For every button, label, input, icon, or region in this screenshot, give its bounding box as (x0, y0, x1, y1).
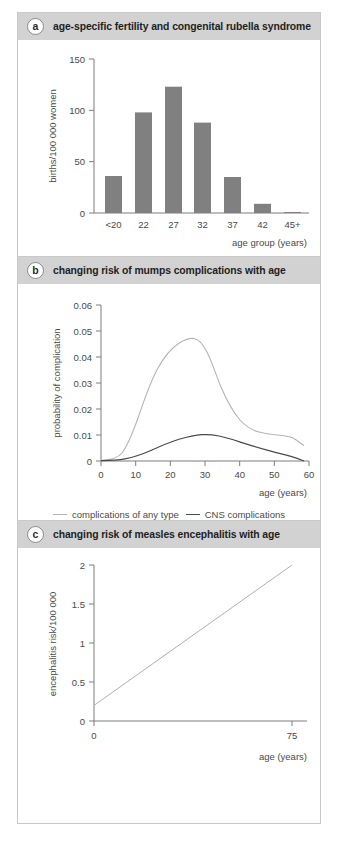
chart-a-ytick-50: 50 (74, 156, 85, 167)
chart-a-ytick-150: 150 (69, 54, 85, 65)
legend-label-cns: CNS complications (205, 509, 285, 520)
bar-lt20 (105, 176, 122, 213)
chart-c-line: 2 1.5 1 0.5 0 0 75 age (years) (18, 549, 320, 771)
bar-32 (194, 123, 211, 213)
chart-a-ytick-100: 100 (69, 105, 85, 116)
chart-b-ytick-0: 0 (87, 456, 92, 467)
panel-b: b changing risk of mumps complications w… (18, 257, 320, 520)
chart-b-xtick-60: 60 (304, 469, 315, 480)
panel-a-header: a age-specific fertility and congenital … (18, 13, 320, 41)
chart-c-xtick-0: 0 (91, 730, 96, 741)
figure-container: a age-specific fertility and congenital … (17, 12, 321, 824)
chart-c-ylabel: encephalitis risk/100 000 (47, 592, 58, 697)
chart-a-xtick-5: 42 (257, 219, 268, 230)
chart-b-xtick-50: 50 (269, 469, 280, 480)
chart-c-ytick-15: 1.5 (72, 599, 85, 610)
chart-a-xtick-3: 32 (197, 219, 208, 230)
chart-c-xticks: 0 75 (91, 721, 297, 741)
bar-37 (224, 177, 241, 213)
chart-a-xtick-4: 37 (227, 219, 238, 230)
chart-a-xlabel: age group (years) (232, 237, 307, 248)
chart-b-legend: complications of any type CNS complicati… (18, 507, 320, 520)
chart-b-xtick-0: 0 (98, 469, 103, 480)
chart-b-xtick-30: 30 (200, 469, 211, 480)
chart-c-ytick-2: 2 (80, 560, 85, 571)
chart-b-xtick-40: 40 (234, 469, 245, 480)
legend-label-any-type: complications of any type (72, 509, 179, 520)
panel-a: a age-specific fertility and congenital … (18, 13, 320, 256)
bar-22 (135, 112, 152, 213)
legend-line-icon-any-type (53, 514, 67, 515)
chart-a-bar: 150 100 50 0 (18, 41, 320, 256)
chart-b-ytick-001: 0.01 (74, 430, 93, 441)
chart-c-xtick-75: 75 (287, 730, 298, 741)
bar-27 (165, 87, 182, 213)
chart-a-ytick-0: 0 (80, 208, 85, 219)
chart-b-xlabel: age (years) (259, 487, 307, 498)
chart-b-ytick-002: 0.02 (74, 404, 93, 415)
chart-a-xtick-2: 27 (168, 219, 179, 230)
panel-a-title: age-specific fertility and congenital ru… (53, 21, 311, 32)
legend-line-icon-cns (186, 514, 200, 515)
chart-b-yticks: 0.06 0.05 0.04 0.03 0.02 0.01 0 (74, 300, 102, 467)
chart-c-yticks: 2 1.5 1 0.5 0 (72, 560, 94, 727)
chart-a-xticks: <20 22 27 32 37 42 45+ (105, 219, 301, 230)
chart-b-ytick-003: 0.03 (74, 378, 93, 389)
panel-c-badge: c (27, 526, 44, 543)
chart-b-line: 0.06 0.05 0.04 0.03 0.02 0.01 0 (18, 285, 320, 507)
bar-45plus (284, 212, 301, 213)
chart-c-ytick-1: 1 (80, 638, 85, 649)
chart-a-ylabel: births/100 000 women (47, 89, 58, 182)
chart-b-ytick-006: 0.06 (74, 300, 93, 311)
chart-c-ytick-05: 0.5 (72, 677, 85, 688)
chart-a-xtick-1: 22 (138, 219, 149, 230)
panel-b-title: changing risk of mumps complications wit… (53, 265, 286, 276)
panel-c-body: 2 1.5 1 0.5 0 0 75 age (years) (18, 549, 320, 771)
panel-a-badge: a (27, 18, 44, 35)
panel-b-header: b changing risk of mumps complications w… (18, 257, 320, 285)
chart-a-yticks: 150 100 50 0 (69, 54, 94, 219)
chart-b-ylabel: probability of complication (51, 328, 62, 437)
bar-42 (254, 204, 271, 213)
chart-c-ytick-0: 0 (80, 716, 85, 727)
legend-item-cns: CNS complications (186, 509, 285, 520)
curve-complications-any-type (101, 338, 304, 460)
chart-b-xticks: 0 10 20 30 40 50 60 (98, 461, 314, 480)
legend-item-any-type: complications of any type (53, 509, 179, 520)
panel-a-body: 150 100 50 0 (18, 41, 320, 256)
chart-b-xtick-10: 10 (130, 469, 141, 480)
chart-b-xtick-20: 20 (165, 469, 176, 480)
chart-a-xtick-6: 45+ (284, 219, 301, 230)
panel-c-header: c changing risk of measles encephalitis … (18, 521, 320, 549)
chart-a-xtick-0: <20 (105, 219, 121, 230)
line-encephalitis-risk (94, 565, 292, 705)
panel-c-title: changing risk of measles encephalitis wi… (53, 529, 280, 540)
chart-a-bars (105, 87, 301, 213)
chart-b-ytick-004: 0.04 (74, 352, 93, 363)
curve-cns-complications (101, 435, 304, 461)
chart-c-xlabel: age (years) (259, 751, 307, 762)
panel-c: c changing risk of measles encephalitis … (18, 521, 320, 771)
chart-b-ytick-005: 0.05 (74, 326, 93, 337)
panel-b-body: 0.06 0.05 0.04 0.03 0.02 0.01 0 (18, 285, 320, 520)
panel-b-badge: b (27, 262, 44, 279)
